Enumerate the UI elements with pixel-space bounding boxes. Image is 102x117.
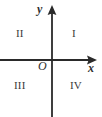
quadrant-label-iii: III [14, 80, 26, 91]
origin-label: O [38, 60, 47, 72]
quadrant-label-iv: IV [70, 80, 82, 91]
y-axis-label: y [37, 3, 42, 15]
axes-graphic [0, 0, 102, 117]
quadrant-label-ii: II [16, 28, 24, 39]
quadrant-label-i: I [72, 28, 76, 39]
x-axis-label: x [88, 62, 94, 74]
coordinate-plane-figure: y x O I II III IV [0, 0, 102, 117]
